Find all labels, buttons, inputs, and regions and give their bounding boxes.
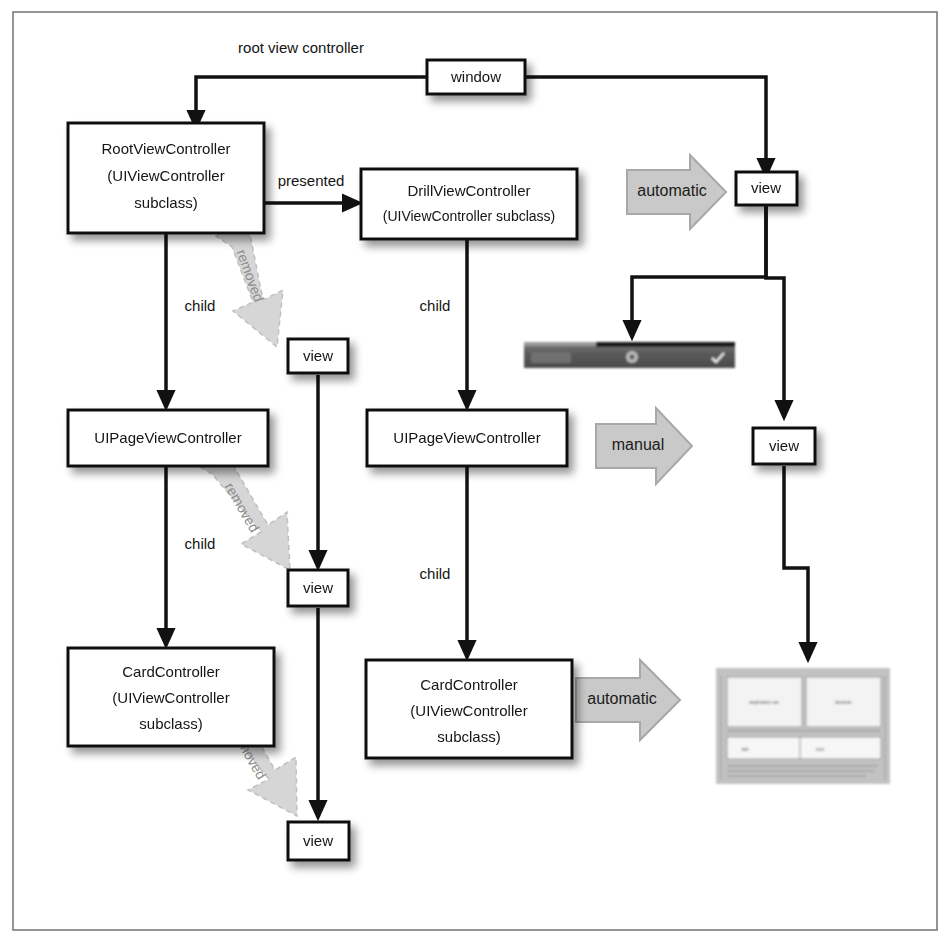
node-cardcontroller-left-line1: CardController	[122, 663, 220, 680]
node-rootviewcontroller-line1: RootViewController	[102, 140, 231, 157]
fat-arrow-manual-label: manual	[612, 436, 664, 453]
node-rootviewcontroller-line2: (UIViewController	[107, 167, 224, 184]
node-cardcontroller-middle-line1: CardController	[420, 676, 518, 693]
ghost-arrow-removed-1: removed	[216, 219, 283, 347]
node-view-removed-1[interactable]: view	[288, 339, 348, 373]
node-cardcontroller-middle-line2: (UIViewController	[410, 702, 527, 719]
node-uipageviewcontroller-left[interactable]: UIPageViewController	[68, 410, 268, 466]
node-view-top-right-label: view	[751, 179, 781, 196]
node-cardcontroller-middle-line3: subclass)	[437, 728, 500, 745]
fat-arrow-manual: manual	[596, 408, 692, 484]
node-view-removed-1-label: view	[303, 347, 333, 364]
node-view-removed-3[interactable]: view	[288, 822, 349, 860]
connector-window-to-view	[525, 77, 766, 168]
fat-arrow-automatic-bottom-label: automatic	[587, 690, 656, 707]
svg-text:aspirazion ao: aspirazion ao	[749, 699, 779, 705]
node-view-removed-2-label: view	[303, 579, 333, 596]
edge-label-child-middle-2: child	[420, 565, 451, 582]
svg-text:window: window	[835, 699, 852, 705]
card-layout-screenshot: aspirazion ao window tab non	[716, 668, 890, 784]
node-cardcontroller-left-line3: subclass)	[139, 715, 202, 732]
connector-view-to-card-thumb	[784, 466, 808, 652]
fat-arrow-automatic-bottom: automatic	[576, 660, 680, 740]
node-cardcontroller-middle[interactable]: CardController (UIViewController subclas…	[366, 660, 572, 758]
edge-label-child-left-1: child	[185, 297, 216, 314]
node-window[interactable]: window	[427, 60, 525, 94]
edge-label-child-middle-1: child	[420, 297, 451, 314]
edge-label-child-left-2: child	[185, 535, 216, 552]
node-view-middle-right-label: view	[769, 437, 799, 454]
fat-arrow-automatic-top-label: automatic	[637, 182, 706, 199]
connector-view-to-view-middle	[766, 203, 784, 410]
node-view-top-right[interactable]: view	[736, 172, 797, 205]
fat-arrow-automatic-top: automatic	[627, 155, 726, 229]
node-uipageviewcontroller-left-label: UIPageViewController	[94, 429, 241, 446]
connector-window-to-rootvc	[196, 77, 427, 120]
node-drillviewcontroller-line1: DrillViewController	[407, 182, 530, 199]
edge-label-root-view-controller: root view controller	[238, 39, 364, 56]
node-uipageviewcontroller-middle[interactable]: UIPageViewController	[367, 410, 567, 466]
ghost-arrow-removed-1-label: removed	[233, 247, 267, 304]
svg-text:tab: tab	[742, 746, 749, 752]
node-rootviewcontroller[interactable]: RootViewController (UIViewController sub…	[68, 123, 264, 233]
navigation-bar-screenshot	[524, 342, 735, 368]
node-cardcontroller-left-line2: (UIViewController	[112, 689, 229, 706]
node-uipageviewcontroller-middle-label: UIPageViewController	[393, 429, 540, 446]
node-view-removed-3-label: view	[303, 832, 333, 849]
connector-view-to-navbar	[632, 203, 766, 330]
node-view-removed-2[interactable]: view	[288, 570, 348, 606]
diagram-figure: removed removed removed automatic manual…	[0, 0, 950, 943]
node-window-label: window	[450, 68, 501, 85]
node-view-middle-right[interactable]: view	[753, 428, 815, 464]
node-drillviewcontroller[interactable]: DrillViewController (UIViewController su…	[361, 169, 577, 239]
node-cardcontroller-left[interactable]: CardController (UIViewController subclas…	[68, 648, 274, 746]
node-rootviewcontroller-line3: subclass)	[134, 194, 197, 211]
edge-label-presented: presented	[278, 172, 345, 189]
node-drillviewcontroller-line2: (UIViewController subclass)	[383, 208, 555, 224]
svg-text:non: non	[816, 746, 825, 752]
